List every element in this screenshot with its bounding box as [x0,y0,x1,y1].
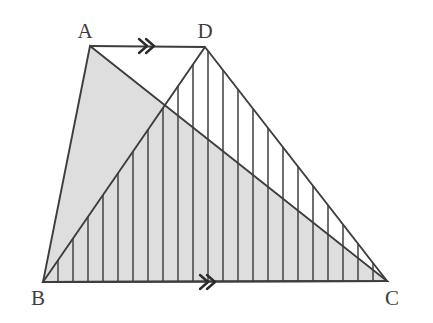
vertex-label-c: C [385,286,399,310]
vertex-label-b: B [31,286,45,310]
vertex-label-d: D [197,19,212,43]
vertex-label-a: A [77,19,93,43]
triangle-abc-shaded-region [43,46,387,282]
geometry-figure: A D B C [0,0,433,323]
geometry-canvas: A D B C [0,0,433,323]
